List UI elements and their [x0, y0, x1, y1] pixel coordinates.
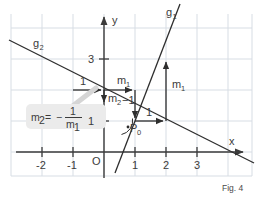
label-g1-sub: 1: [173, 12, 177, 21]
function-lines: [9, 4, 254, 173]
label-g2-sub: 2: [40, 43, 44, 52]
x-tick-label-1: 1: [132, 159, 138, 171]
label-m1-right-text: m: [172, 78, 181, 90]
formula-equals: =: [45, 111, 51, 123]
x-tick-label--2: -2: [36, 159, 46, 171]
label-m1-right: m 1: [172, 78, 185, 93]
x-tick-label--1: -1: [67, 159, 77, 171]
y-tick-label-1: 1: [88, 115, 94, 127]
point-p0-sub: 0: [137, 128, 141, 137]
label-m1-top-sub: 1: [126, 80, 130, 89]
formula-minus: −: [56, 111, 62, 123]
label-g2-text: g: [33, 37, 39, 49]
figure-caption: Fig. 4: [222, 183, 244, 193]
origin-label: O: [92, 155, 101, 167]
line-g1: [115, 4, 180, 173]
coordinate-plane: y x O -2 -1 1 2 3 1 3 g 1 g 2 1 m 1 m 2 …: [0, 0, 266, 203]
label-run-bottom: 1: [146, 106, 152, 118]
y-tick-label-3: 3: [88, 53, 94, 65]
label-minus-one: −1: [122, 94, 135, 106]
formula-denominator-sub: 1: [74, 121, 80, 133]
label-m1-top: m 1: [117, 74, 130, 89]
y-axis-label: y: [112, 14, 118, 26]
label-g1-text: g: [166, 6, 172, 18]
figure-container: y x O -2 -1 1 2 3 1 3 g 1 g 2 1 m 1 m 2 …: [0, 0, 266, 203]
label-m2-down: m 2: [108, 92, 121, 107]
label-run-top: 1: [80, 75, 86, 87]
formula-numerator: 1: [70, 105, 76, 117]
label-m2-down-sub: 2: [117, 98, 121, 107]
x-tick-label-2: 2: [163, 159, 169, 171]
point-p0-label: P 0: [130, 122, 141, 137]
label-g1: g 1: [166, 6, 177, 21]
label-m1-right-sub: 1: [181, 84, 185, 93]
label-m2-down-text: m: [108, 92, 117, 104]
x-tick-label-3: 3: [194, 159, 200, 171]
x-axis-label: x: [229, 135, 235, 147]
label-m1-top-text: m: [117, 74, 126, 86]
